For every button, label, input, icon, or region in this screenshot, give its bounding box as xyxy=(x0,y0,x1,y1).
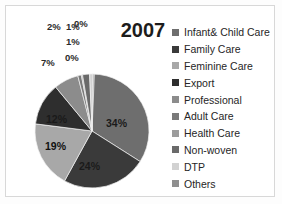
slice-label-professional: 7% xyxy=(41,58,55,68)
legend: Infant& Child CareFamily CareFeminine Ca… xyxy=(172,24,280,192)
legend-item-label: Family Care xyxy=(184,43,241,55)
slice-label-others: 0% xyxy=(74,19,88,29)
legend-item[interactable]: Adult Care xyxy=(172,108,280,125)
slice-label-adult-care: 1% xyxy=(66,37,80,47)
legend-swatch-icon xyxy=(172,96,179,103)
legend-item-label: Non-woven xyxy=(184,144,237,156)
legend-item[interactable]: Infant& Child Care xyxy=(172,24,280,41)
chart-screenshot: 2007 34% 24% 19% 12% 7% 2% 1% 0% 1% 0% I… xyxy=(0,0,282,204)
legend-item[interactable]: Export xyxy=(172,74,280,91)
legend-item-label: Others xyxy=(184,178,216,190)
legend-item-label: Infant& Child Care xyxy=(184,26,270,38)
legend-swatch-icon xyxy=(172,163,179,170)
legend-item-label: DTP xyxy=(184,161,205,173)
legend-item-label: Feminine Care xyxy=(184,60,253,72)
legend-swatch-icon xyxy=(172,46,179,53)
legend-item[interactable]: Family Care xyxy=(172,41,280,58)
legend-item-label: Health Care xyxy=(184,127,240,139)
legend-item[interactable]: Others xyxy=(172,175,280,192)
page-title: 2007 xyxy=(114,19,172,41)
slice-label-feminine-care: 19% xyxy=(45,141,66,152)
legend-swatch-icon xyxy=(172,79,179,86)
legend-item[interactable]: Health Care xyxy=(172,125,280,142)
chart-frame: 2007 34% 24% 19% 12% 7% 2% 1% 0% 1% 0% I… xyxy=(5,5,275,197)
slice-label-health-care: 0% xyxy=(65,53,79,63)
legend-item[interactable]: Non-woven xyxy=(172,142,280,159)
legend-swatch-icon xyxy=(172,113,179,120)
slice-label-export: 12% xyxy=(46,114,67,125)
legend-swatch-icon xyxy=(172,62,179,69)
legend-swatch-icon xyxy=(172,130,179,137)
legend-item[interactable]: Feminine Care xyxy=(172,58,280,75)
slice-label-family-care: 24% xyxy=(79,161,100,172)
pie-chart: 34% 24% 19% 12% xyxy=(34,73,150,189)
legend-item-label: Professional xyxy=(184,94,242,106)
legend-item-label: Adult Care xyxy=(184,110,234,122)
legend-swatch-icon xyxy=(172,29,179,36)
slice-label-non-woven: 2% xyxy=(47,22,61,32)
slice-label-infant-child-care: 34% xyxy=(106,118,127,129)
legend-swatch-icon xyxy=(172,146,179,153)
legend-item[interactable]: DTP xyxy=(172,158,280,175)
legend-swatch-icon xyxy=(172,180,179,187)
legend-item-label: Export xyxy=(184,77,214,89)
legend-item[interactable]: Professional xyxy=(172,91,280,108)
